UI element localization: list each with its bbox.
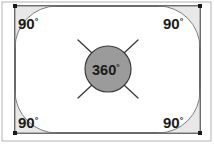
diagram-canvas: 90° 90° 90° 90° 360° xyxy=(0,0,214,144)
degree-symbol-bottom-right: ° xyxy=(180,115,184,125)
vertex-dot-bottom-left xyxy=(13,131,17,135)
angle-value-bottom-right: 90 xyxy=(163,114,180,131)
angles-diagram: 90° 90° 90° 90° 360° xyxy=(0,0,214,144)
vertex-dot-bottom-right xyxy=(198,131,202,135)
vertex-dot-top-left xyxy=(13,4,17,8)
degree-symbol-bottom-left: ° xyxy=(35,115,39,125)
degree-symbol-top-left: ° xyxy=(35,16,39,26)
angle-value-bottom-left: 90 xyxy=(18,114,35,131)
degree-symbol-top-right: ° xyxy=(180,16,184,26)
vertex-dot-top-right xyxy=(198,4,202,8)
degree-symbol-center: ° xyxy=(116,62,120,72)
angle-value-top-left: 90 xyxy=(18,15,35,32)
center-angle-value: 360 xyxy=(92,62,116,78)
center-angle-label: 360° xyxy=(92,62,120,78)
angle-value-top-right: 90 xyxy=(163,15,180,32)
